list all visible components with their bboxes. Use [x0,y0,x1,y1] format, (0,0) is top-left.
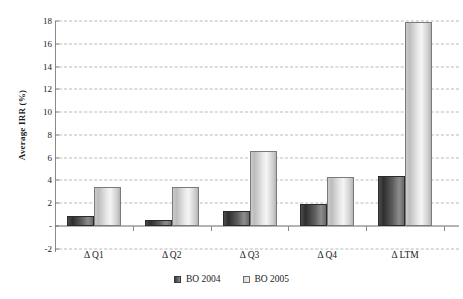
bar-group [66,187,122,226]
bar-2005[interactable] [327,177,354,226]
legend-label: BO 2005 [255,274,290,284]
y-tick-label: 10 [43,107,52,117]
y-tick-label: 8 [48,130,53,140]
category-tick [444,226,445,231]
y-tick-label: 4 [48,175,53,185]
legend-item[interactable]: BO 2004 [174,274,221,284]
category-tick [211,226,212,231]
bar-2005[interactable] [250,151,277,226]
y-tick-label: 18 [43,16,52,26]
bar-2005[interactable] [94,187,121,226]
legend-swatch-icon [243,276,250,283]
bar-group [377,22,433,226]
bar-2005[interactable] [405,22,432,226]
bar-group [222,151,278,226]
x-tick-label: Δ Q2 [162,250,182,260]
x-tick-label: Δ Q3 [240,250,260,260]
x-tick-label: Δ Q1 [84,250,104,260]
bar-group [299,177,355,226]
chart-legend: BO 2004BO 2005 [0,274,463,284]
y-tick-label: 6 [48,153,53,163]
bar-2004[interactable] [223,211,250,226]
y-axis-title-text: Average IRR (%) [17,90,27,160]
bar-2004[interactable] [145,220,172,226]
y-tick-label: 12 [43,84,52,94]
y-tick-label: -2 [45,244,53,254]
y-tick-label: 14 [43,62,52,72]
x-tick-label: Δ LTM [392,250,419,260]
y-tick-label: - [49,221,52,231]
legend-label: BO 2004 [186,274,221,284]
category-tick [366,226,367,231]
bar-group [144,187,200,226]
y-axis-title: Average IRR (%) [14,0,30,250]
legend-swatch-icon [174,276,181,283]
x-tick-label: Δ Q4 [318,250,338,260]
y-axis-tick-labels: 18161412108642--2 [30,12,52,244]
bar-2004[interactable] [67,216,94,226]
bar-2004[interactable] [378,176,405,226]
category-tick [133,226,134,231]
category-tick [288,226,289,231]
chart-figure: Average IRR (%) 18161412108642--2 Δ Q1Δ … [0,0,463,299]
legend-item[interactable]: BO 2005 [243,274,290,284]
y-tick-label: 2 [48,198,53,208]
bar-2004[interactable] [300,204,327,226]
y-tick-label: 16 [43,39,52,49]
bar-2005[interactable] [172,187,199,226]
